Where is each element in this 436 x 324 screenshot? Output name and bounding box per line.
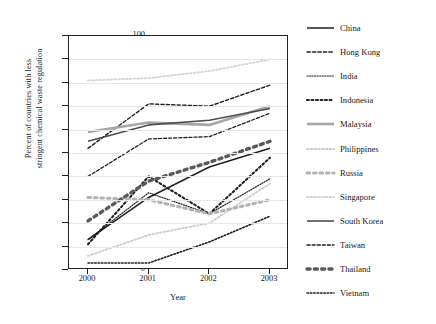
x-tick-label: 2003	[244, 274, 294, 283]
legend-label: Hong Kong	[340, 47, 380, 57]
legend-item-china[interactable]: China	[307, 16, 435, 40]
gridlines	[69, 36, 287, 268]
legend-swatch-icon	[307, 71, 334, 81]
legend-swatch-icon	[307, 192, 334, 202]
legend-item-singapore[interactable]: Singapore	[307, 185, 435, 209]
y-axis-title: Percent of countries with less stringent…	[24, 0, 45, 219]
legend-label: Malaysia	[340, 119, 372, 129]
legend-label: China	[340, 23, 361, 33]
gridline	[69, 83, 287, 84]
y-tick-mark	[62, 269, 68, 270]
x-tick-mark	[208, 269, 209, 274]
gridline	[69, 223, 287, 224]
legend-label: Vietnam	[340, 288, 369, 298]
legend-label: Philippines	[340, 144, 379, 154]
gridline	[69, 176, 287, 177]
gridline	[69, 130, 287, 131]
legend-item-indonesia[interactable]: Indonesia	[307, 88, 435, 112]
gridline	[69, 106, 287, 107]
legend-item-russia[interactable]: Russia	[307, 161, 435, 185]
x-tick-mark	[87, 269, 88, 274]
legend-item-philippines[interactable]: Philippines	[307, 136, 435, 160]
legend-item-india[interactable]: India	[307, 64, 435, 88]
legend-item-taiwan[interactable]: Taiwan	[307, 233, 435, 257]
y-axis-title-line1: Percent of countries with less	[24, 0, 35, 219]
gridline	[69, 153, 287, 154]
legend-swatch-icon	[307, 144, 334, 154]
legend-item-hong-kong[interactable]: Hong Kong	[307, 40, 435, 64]
legend-label: India	[340, 71, 358, 81]
legend-label: South Korea	[340, 216, 383, 226]
legend-label: Russia	[340, 168, 363, 178]
x-axis-title: Year	[68, 292, 288, 302]
x-tick-label: 2002	[183, 274, 233, 283]
x-tick-mark	[148, 269, 149, 274]
x-tick-label: 2001	[123, 274, 173, 283]
legend-swatch-icon	[307, 168, 334, 178]
legend-label: Taiwan	[340, 240, 365, 250]
legend-swatch-icon	[307, 47, 334, 57]
gridline	[69, 247, 287, 248]
legend-swatch-icon	[307, 95, 334, 105]
legend-item-south-korea[interactable]: South Korea	[307, 209, 435, 233]
legend-swatch-icon	[307, 23, 334, 33]
legend-item-vietnam[interactable]: Vietnam	[307, 281, 435, 305]
legend-swatch-icon	[307, 119, 334, 129]
legend-item-malaysia[interactable]: Malaysia	[307, 112, 435, 136]
legend-label: Indonesia	[340, 95, 373, 105]
legend-swatch-icon	[307, 264, 334, 274]
x-tick-mark	[269, 269, 270, 274]
chart-figure: Percent of countries with less stringent…	[0, 0, 436, 324]
y-axis-title-line2: stringent chemical waste regulation	[34, 0, 45, 219]
legend-label: Thailand	[340, 264, 371, 274]
legend-label: Singapore	[340, 192, 375, 202]
legend: ChinaHong KongIndiaIndonesiaMalaysiaPhil…	[307, 16, 435, 305]
gridline	[69, 59, 287, 60]
x-tick-label: 2000	[62, 274, 112, 283]
plot-area	[68, 35, 288, 269]
gridline	[69, 200, 287, 201]
legend-swatch-icon	[307, 240, 334, 250]
legend-swatch-icon	[307, 216, 334, 226]
legend-swatch-icon	[307, 288, 334, 298]
legend-item-thailand[interactable]: Thailand	[307, 257, 435, 281]
